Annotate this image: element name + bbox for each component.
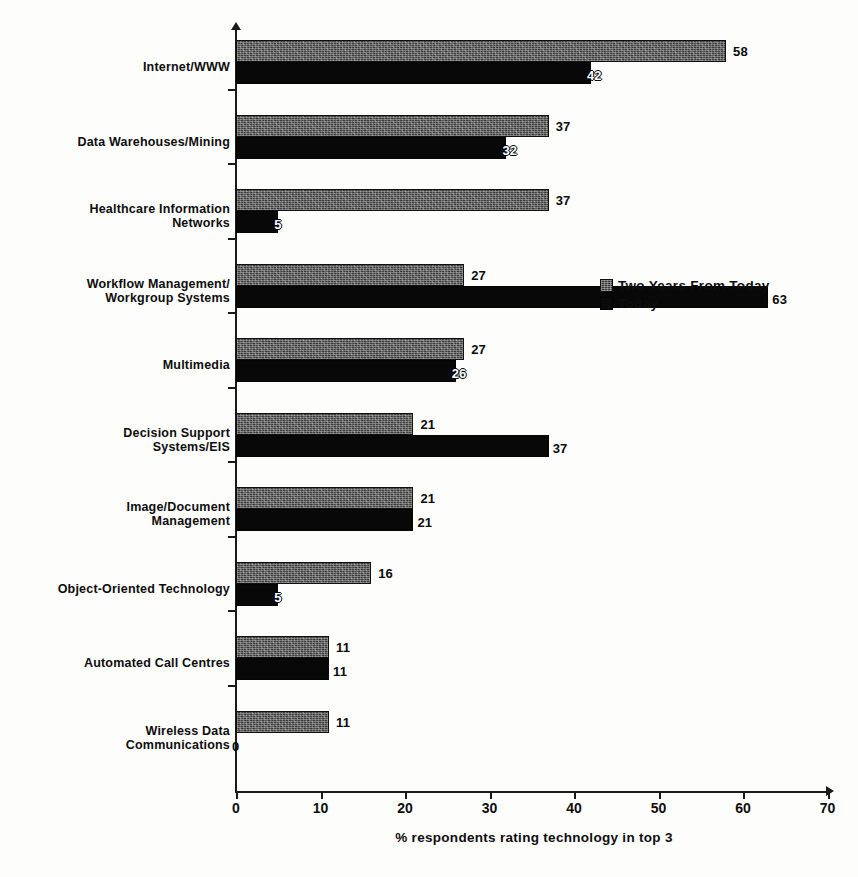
bar-value-two-years: 11 [336,640,350,655]
category-label-line: Communications [0,738,230,752]
bar-today[interactable] [236,435,549,457]
bar-today[interactable] [236,584,278,606]
legend-item-two-years[interactable]: Two Years From Today [600,278,770,293]
x-axis-tick-label: 10 [301,800,341,816]
bar-value-today: 26 [452,366,467,381]
y-axis-tick [228,163,237,165]
bar-value-two-years: 37 [556,119,571,134]
category-label-line: Networks [0,216,230,230]
bar-two-years-from-today[interactable] [236,40,726,62]
bar-today[interactable] [236,509,413,531]
legend-swatch-today-icon [600,297,613,310]
bar-value-two-years: 58 [733,44,748,59]
bar-today[interactable] [236,62,591,84]
bar-value-today: 11 [333,664,347,679]
category-label: Healthcare InformationNetworks [0,202,230,231]
bar-two-years-from-today[interactable] [236,264,464,286]
x-axis-tick [743,791,745,799]
bar-value-two-years: 21 [420,417,435,432]
x-axis-tick-label: 30 [470,800,510,816]
bar-value-today: 32 [502,143,517,158]
x-axis-tick-label: 20 [385,800,425,816]
category-label-line: Workgroup Systems [0,291,230,305]
y-axis-tick [228,312,237,314]
category-label-line: Object-Oriented Technology [0,582,230,596]
x-axis-tick [828,791,830,799]
bar-value-two-years: 27 [471,268,486,283]
category-label-line: Image/Document [0,500,230,514]
category-label: Internet/WWW [0,60,230,74]
category-label-line: Systems/EIS [0,440,230,454]
category-label: Image/DocumentManagement [0,500,230,529]
x-axis-line [235,791,831,793]
bar-value-two-years: 37 [556,193,571,208]
category-label: Multimedia [0,358,230,372]
x-axis-tick-label: 60 [723,800,763,816]
category-label: Workflow Management/Workgroup Systems [0,277,230,306]
bar-value-today: 37 [553,441,568,456]
chart-legend: Two Years From Today Today [600,278,770,314]
x-axis-tick [236,791,238,799]
bar-value-today: 21 [417,515,432,530]
y-axis-tick [228,238,237,240]
bar-value-two-years: 21 [420,491,435,506]
x-axis-tick [405,791,407,799]
bar-value-today: 5 [274,217,281,232]
x-axis-tick-label: 40 [554,800,594,816]
legend-label-two-years: Two Years From Today [618,278,770,293]
y-axis-tick [228,461,237,463]
bar-today[interactable] [236,360,456,382]
y-axis-tick [228,685,237,687]
category-label: Automated Call Centres [0,656,230,670]
bar-today[interactable] [236,658,329,680]
bar-value-today: 5 [274,590,281,605]
y-axis-tick [228,610,237,612]
bar-two-years-from-today[interactable] [236,413,413,435]
legend-label-today: Today [618,296,658,311]
bar-value-today: 0 [232,739,239,754]
y-axis-arrow-icon [231,22,241,30]
bar-two-years-from-today[interactable] [236,711,329,733]
category-label-line: Automated Call Centres [0,656,230,670]
legend-item-today[interactable]: Today [600,296,770,311]
bar-value-two-years: 16 [378,566,393,581]
bar-two-years-from-today[interactable] [236,487,413,509]
y-axis-tick [228,89,237,91]
x-axis-tick-label: 50 [639,800,679,816]
x-axis-tick-label: 70 [808,800,848,816]
category-label: Wireless DataCommunications [0,724,230,753]
bar-value-today: 63 [772,292,787,307]
y-axis-tick [228,536,237,538]
bar-chart: Internet/WWW5842Data Warehouses/Mining37… [0,0,858,877]
category-label-line: Multimedia [0,358,230,372]
bar-two-years-from-today[interactable] [236,189,549,211]
category-label-line: Internet/WWW [0,60,230,74]
bar-two-years-from-today[interactable] [236,115,549,137]
bar-today[interactable] [236,137,506,159]
x-axis-tick [659,791,661,799]
category-label: Decision SupportSystems/EIS [0,426,230,455]
x-axis-tick [490,791,492,799]
x-axis-tick [321,791,323,799]
category-label-line: Wireless Data [0,724,230,738]
category-label-line: Workflow Management/ [0,277,230,291]
category-label-line: Data Warehouses/Mining [0,135,230,149]
x-axis-tick-label: 0 [216,800,256,816]
category-label-line: Management [0,514,230,528]
category-label: Object-Oriented Technology [0,582,230,596]
bar-two-years-from-today[interactable] [236,562,371,584]
x-axis-title: % respondents rating technology in top 3 [236,830,832,845]
bar-today[interactable] [236,211,278,233]
bar-two-years-from-today[interactable] [236,338,464,360]
legend-swatch-two-years-icon [600,279,613,292]
category-label-line: Healthcare Information [0,202,230,216]
bar-value-two-years: 11 [336,715,350,730]
bar-two-years-from-today[interactable] [236,636,329,658]
category-label: Data Warehouses/Mining [0,135,230,149]
y-axis-tick [228,387,237,389]
category-label-line: Decision Support [0,426,230,440]
x-axis-tick [574,791,576,799]
bar-value-two-years: 27 [471,342,486,357]
bar-value-today: 42 [587,68,602,83]
